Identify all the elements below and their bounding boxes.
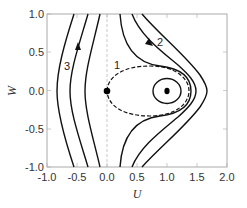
x-tick-label: 0.0 xyxy=(99,171,114,183)
x-tick-label: 1.5 xyxy=(189,171,204,183)
axis-ticks xyxy=(47,14,227,167)
center-point xyxy=(164,88,169,94)
curve-left-inner xyxy=(85,14,100,167)
curve-left-outer xyxy=(57,14,74,167)
x-tick-label: 2.0 xyxy=(219,171,234,183)
saddle-point xyxy=(104,88,111,95)
y-axis-label: W xyxy=(5,85,19,96)
y-tick-label: 1.0 xyxy=(29,8,44,20)
y-tick-label: 0.5 xyxy=(29,46,44,58)
x-axis-label: U xyxy=(133,187,143,201)
y-tick-label: -0.5 xyxy=(25,123,44,135)
y-tick-label: 0.0 xyxy=(29,85,44,97)
curve-label-3: 3 xyxy=(64,60,70,72)
x-tick-label: 0.5 xyxy=(129,171,144,183)
curve-label-2: 2 xyxy=(157,36,163,48)
curve-right-outer xyxy=(142,14,207,167)
phase-portrait-chart: 3 1 2 1.0 0.5 0.0 -0.5 -1.0 -1.0 -0.5 0.… xyxy=(0,0,247,208)
x-tick-label: -1.0 xyxy=(38,171,57,183)
x-tick-label: -0.5 xyxy=(68,171,87,183)
arrow-up-icon xyxy=(75,42,81,50)
x-tick-label: 1.0 xyxy=(159,171,174,183)
curve-label-1: 1 xyxy=(114,59,120,71)
curve-1-separatrix xyxy=(107,66,189,116)
plot-frame xyxy=(47,14,227,167)
